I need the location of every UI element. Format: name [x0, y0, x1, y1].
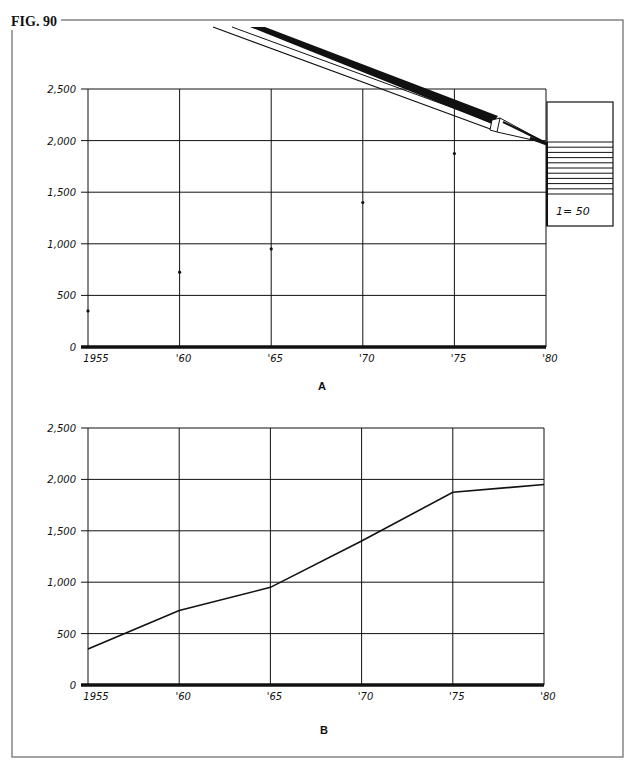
y-tick-label: 2,500	[47, 84, 76, 95]
y-tick-label: 1,000	[47, 577, 76, 588]
data-point	[361, 201, 364, 204]
y-tick-label: 1,000	[47, 239, 76, 250]
y-tick-label: 0	[70, 680, 76, 691]
x-tick-label: '75	[449, 691, 464, 702]
x-tick-label: '65	[267, 353, 282, 364]
y-tick-label: 2,500	[47, 423, 76, 434]
panel-b-label: B	[320, 724, 328, 736]
y-tick-label: 2,000	[47, 136, 76, 147]
x-tick-label: '80	[542, 353, 557, 364]
x-tick-label: '65	[267, 691, 282, 702]
chart-b: 05001,0001,5002,0002,5001955'60'65'70'75…	[47, 423, 555, 702]
data-point	[86, 309, 89, 312]
scale-note: 1= 50	[556, 205, 590, 218]
y-tick-label: 0	[70, 342, 76, 353]
scale-ruler: 1= 50	[547, 102, 613, 226]
y-tick-label: 500	[57, 629, 76, 640]
x-tick-label: '60	[176, 353, 191, 364]
y-tick-label: 1,500	[47, 187, 76, 198]
x-tick-label: '60	[175, 691, 190, 702]
y-tick-label: 1,500	[47, 526, 76, 537]
y-tick-label: 2,000	[47, 474, 76, 485]
x-tick-label: 1955	[83, 691, 108, 702]
x-tick-label: '70	[359, 353, 374, 364]
figure-label: FIG. 90	[11, 14, 61, 30]
data-point	[270, 247, 273, 250]
y-tick-label: 500	[57, 290, 76, 301]
x-tick-label: '70	[358, 691, 373, 702]
data-point	[178, 271, 181, 274]
panel-a-label: A	[318, 380, 326, 392]
pencil-icon	[213, 27, 546, 144]
x-tick-label: 1955	[83, 353, 108, 364]
data-point	[453, 152, 456, 155]
data-line	[88, 485, 544, 649]
x-tick-label: '75	[451, 353, 466, 364]
x-tick-label: '80	[540, 691, 555, 702]
